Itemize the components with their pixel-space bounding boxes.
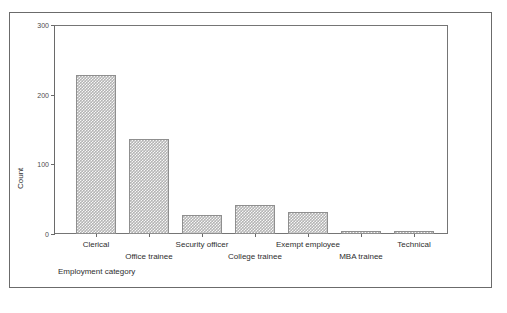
x-tick-mark-technical: [414, 234, 415, 237]
y-tick-label-0: 0: [45, 231, 49, 238]
bar-chart-figure: 300 200 100 0 Clerical Office trainee Se…: [0, 0, 507, 313]
x-tick-mark-mba-trainee: [361, 234, 362, 237]
x-tick-mark-clerical: [96, 234, 97, 237]
x-tick-mark-office-trainee: [149, 234, 150, 237]
x-tick-label-technical: Technical: [376, 240, 452, 249]
bar-clerical: [76, 75, 116, 234]
x-tick-mark-security-officer: [202, 234, 203, 237]
x-tick-label-clerical: Clerical: [56, 240, 136, 249]
x-tick-label-mba-trainee: MBA trainee: [321, 252, 401, 261]
bar-college-trainee: [235, 205, 275, 234]
y-tick-mark-0: [51, 234, 55, 235]
bars-container: [55, 25, 448, 234]
x-tick-mark-exempt-employee: [308, 234, 309, 237]
y-tick-label-300: 300: [37, 22, 49, 29]
y-tick-label-200: 200: [37, 92, 49, 99]
y-tick-label-100: 100: [37, 161, 49, 168]
x-axis-title: Employment category: [58, 267, 135, 276]
bar-exempt-employee: [288, 212, 328, 234]
x-tick-label-college-trainee: College trainee: [211, 252, 299, 261]
bar-office-trainee: [129, 139, 169, 234]
y-axis-title: Count: [16, 168, 25, 189]
x-tick-label-office-trainee: Office trainee: [109, 252, 189, 261]
x-tick-label-exempt-employee: Exempt employee: [261, 240, 355, 249]
bar-security-officer: [182, 215, 222, 234]
y-axis-tick-labels: 300 200 100 0: [0, 0, 49, 313]
x-tick-label-security-officer: Security officer: [157, 240, 247, 249]
x-tick-mark-college-trainee: [255, 234, 256, 237]
